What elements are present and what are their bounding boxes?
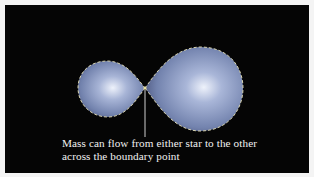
figure-caption: Mass can flow from either star to the ot… <box>62 137 302 162</box>
smaller-star-lobe <box>78 61 145 117</box>
caption-line-2: across the boundary point <box>62 150 302 163</box>
larger-star-lobe <box>145 47 243 131</box>
boundary-point-marker <box>143 86 146 89</box>
caption-line-1: Mass can flow from either star to the ot… <box>62 137 302 150</box>
